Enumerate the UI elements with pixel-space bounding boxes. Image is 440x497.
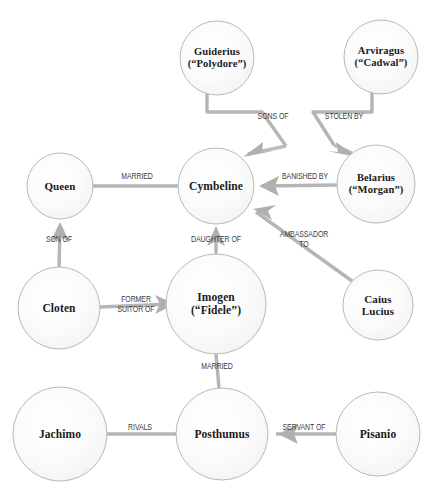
node-circle-imogen[interactable] bbox=[166, 254, 266, 354]
edge-path-ambassador-to bbox=[256, 212, 352, 281]
edge-path-married-imogen bbox=[216, 354, 219, 388]
character-relationship-diagram: Guiderius (“Polydore”)Arviragus (“Cadwal… bbox=[0, 0, 440, 497]
node-circle-guiderius[interactable] bbox=[180, 21, 254, 95]
node-circle-queen[interactable] bbox=[27, 153, 93, 219]
edge-path-sons-of bbox=[207, 94, 286, 146]
node-circle-belarius[interactable] bbox=[337, 145, 415, 223]
node-circle-cymbeline[interactable] bbox=[178, 148, 254, 224]
node-circle-caius-lucius[interactable] bbox=[343, 270, 413, 340]
node-circle-arviragus[interactable] bbox=[344, 20, 418, 94]
graph-canvas bbox=[0, 0, 440, 497]
edge-path-stolen-by bbox=[313, 93, 372, 145]
node-circle-jachimo[interactable] bbox=[13, 387, 107, 481]
node-circle-cloten[interactable] bbox=[18, 267, 100, 349]
node-circle-pisanio[interactable] bbox=[336, 392, 420, 476]
node-circle-posthumus[interactable] bbox=[176, 388, 268, 480]
